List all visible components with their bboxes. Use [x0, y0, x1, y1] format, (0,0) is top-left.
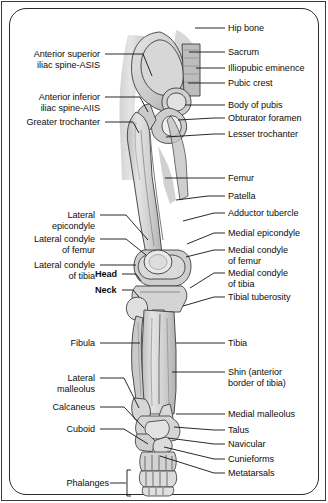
label-medial-epicondyle: Medial epicondyle: [228, 228, 300, 239]
label-adductor-tubercle: Adductor tubercle: [228, 208, 298, 219]
label-phalanges: Phalanges: [0, 478, 109, 489]
label-cuboid: Cuboid: [0, 424, 95, 435]
label-neck: Neck: [95, 285, 117, 296]
label-patella: Patella: [228, 191, 255, 202]
label-talus: Talus: [228, 425, 249, 436]
label-lateral-condyle-of-femur: Lateral condyleof femur: [0, 234, 95, 255]
label-anterior-superior-iliac-spine: Anterior superioriliac spine-ASIS: [0, 49, 100, 70]
label-shin: Shin (anteriorborder of tibia): [228, 367, 286, 388]
label-tibial-tuberosity: Tibial tuberosity: [228, 292, 291, 303]
label-lesser-trochanter: Lesser trochanter: [228, 129, 298, 140]
label-body-of-pubis: Body of pubis: [228, 100, 282, 111]
label-head: Head: [95, 269, 117, 280]
label-sacrum: Sacrum: [228, 47, 259, 58]
label-metatarsals: Metatarsals: [228, 468, 274, 479]
label-lateral-epicondyle: Lateralepicondyle: [0, 210, 95, 231]
label-obturator-foramen: Obturator foramen: [228, 113, 301, 124]
label-pubic-crest: Pubic crest: [228, 78, 272, 89]
label-lateral-malleolus: Lateralmalleolus: [0, 373, 95, 394]
label-hip-bone: Hip bone: [228, 23, 264, 34]
label-calcaneus: Calcaneus: [0, 402, 95, 413]
label-femur: Femur: [228, 173, 254, 184]
label-medial-condyle-of-femur: Medial condyleof femur: [228, 245, 288, 266]
label-lateral-condyle-of-tibia: Lateral condyleof tibia: [0, 260, 95, 281]
label-greater-trochanter: Greater trochanter: [0, 117, 100, 128]
label-navicular: Navicular: [228, 439, 265, 450]
label-fibula: Fibula: [0, 338, 95, 349]
label-medial-condyle-of-tibia: Medial condyleof tibia: [228, 268, 288, 289]
label-medial-malleolus: Medial malleolus: [228, 409, 295, 420]
label-anterior-inferior-iliac-spine: Anterior inferioriliac spine-AIIS: [0, 92, 100, 113]
anatomical-figure-plate: Hip bone Sacrum Illiopubic eminence Pubi…: [0, 0, 328, 503]
label-illiopubic-eminence: Illiopubic eminence: [228, 63, 304, 74]
label-cunieforms: Cunieforms: [228, 454, 274, 465]
label-tibia: Tibia: [228, 338, 247, 349]
